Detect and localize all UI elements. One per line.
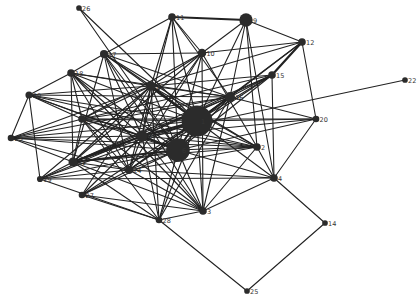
node-26[interactable] [76,5,82,11]
node-label-6: 6 [182,147,186,155]
node-6[interactable] [166,138,190,162]
node-label-10: 10 [206,50,214,58]
node-label-22: 22 [408,77,416,85]
node-15[interactable] [268,71,276,79]
edge-15-4 [272,75,274,178]
node-7[interactable] [136,130,147,141]
edge-9-10 [202,20,246,53]
edge-11-17 [104,17,172,54]
node-label-4: 4 [278,175,282,183]
node-24[interactable] [125,166,133,174]
edge-4-14 [274,178,325,223]
node-label-20: 20 [320,116,328,124]
node-label-17: 17 [108,51,116,59]
node-3[interactable] [199,207,207,215]
node-19[interactable] [37,176,43,182]
node-4[interactable] [270,174,278,182]
network-graph: 1234567910111213141516171819202122232425… [0,0,418,303]
node-label-5: 5 [86,116,90,124]
node-label-25: 25 [250,288,258,296]
node-21[interactable] [68,157,77,166]
edge-12-20 [302,42,316,119]
node-14[interactable] [322,220,328,226]
edge-19-4 [40,178,274,179]
node-label-24: 24 [133,167,141,175]
node-22[interactable] [402,77,408,83]
node-label-3: 3 [207,208,211,216]
edge-11-7 [142,17,172,136]
node-label-7: 7 [148,133,152,141]
node-label-16: 16 [235,94,243,102]
node-30[interactable] [25,91,32,98]
edge-2-24 [129,147,257,170]
node-label-9: 9 [253,17,257,25]
node-11[interactable] [168,13,176,21]
edge-24-3 [129,170,203,211]
node-25[interactable] [244,288,250,294]
node-label-23: 23 [15,135,23,143]
node-16[interactable] [225,92,235,102]
node-label-12: 12 [306,39,314,47]
edge-10-17 [104,53,202,54]
node-9[interactable] [239,13,252,26]
edge-12-15 [272,42,302,75]
node-1[interactable] [182,106,213,137]
node-label-28: 28 [163,217,171,225]
edge-20-4 [274,119,316,178]
edge-3-4 [203,178,274,211]
node-label-18: 18 [75,70,83,78]
edge-14-25 [247,223,325,291]
node-label-1: 1 [201,118,205,126]
node-10[interactable] [198,49,207,58]
edge-17-16 [104,54,230,97]
node-27[interactable] [79,192,86,199]
node-2[interactable] [253,143,261,151]
node-28[interactable] [156,217,163,224]
node-label-26: 26 [82,5,90,13]
node-label-14: 14 [328,220,336,228]
node-label-11: 11 [176,14,184,22]
node-label-30: 30 [33,92,41,100]
node-label-2: 2 [261,144,265,152]
node-23[interactable] [8,135,15,142]
node-18[interactable] [67,69,75,77]
node-label-19: 19 [43,176,51,184]
node-label-21: 21 [78,159,86,167]
edge-18-21 [71,73,73,162]
node-label-27: 27 [86,192,94,200]
node-5[interactable] [78,115,86,123]
edge-28-25 [159,220,247,291]
node-13[interactable] [146,81,156,91]
edge-30-23 [11,95,29,138]
node-label-15: 15 [276,72,284,80]
node-17[interactable] [100,50,108,58]
edge-30-19 [29,95,40,179]
node-12[interactable] [298,38,306,46]
node-20[interactable] [313,116,320,123]
node-label-13: 13 [156,83,164,91]
